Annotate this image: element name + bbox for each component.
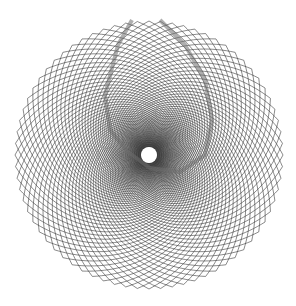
center-hole [141,147,157,163]
spiral-lattice-artwork [0,0,296,306]
spiral-pattern-figure [0,0,296,306]
